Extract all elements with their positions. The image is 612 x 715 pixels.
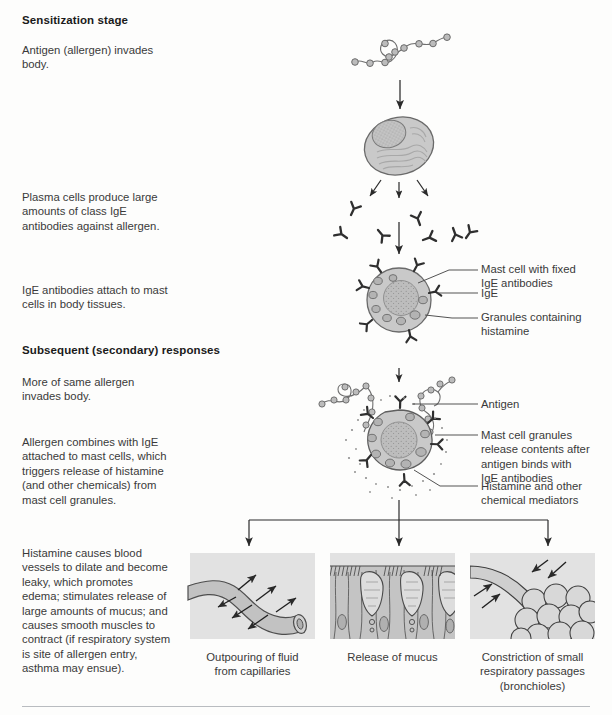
section-heading-subsequent: Subsequent (secondary) responses [22,344,220,356]
panel-caption-mucus: Release of mucus [330,650,455,664]
antigen-chain-secondary-icon [319,377,455,435]
bronchiole-alveoli-icon [470,553,601,648]
callout-granules-containing-histamine: Granules containing histamine [481,310,611,339]
antibody-cluster-icon [334,202,477,245]
callout-histamine-and-mediators: Histamine and other chemical mediators [481,479,611,508]
histamine-speckles [345,395,448,499]
callout-ige: IgE [481,286,498,300]
callout-mast-cell-with-fixed-ige: Mast cell with fixed IgE antibodies [481,262,611,291]
panel-caption-bronchiole: Constriction of small respiratory passag… [470,650,595,693]
plasma-cell-icon [358,109,441,183]
step-antigen-invades: Antigen (allergen) invades body. [22,43,202,72]
section-heading-sensitization: Sensitization stage [22,14,128,26]
callout-antigen: Antigen [481,397,519,411]
step-more-allergen-invades: More of same allergen invades body. [22,375,212,404]
step-ige-attach-mast-cells: IgE antibodies attach to mast cells in b… [22,283,222,312]
antigen-chain-icon [352,34,451,67]
step-allergen-combines-ige: Allergen combines with IgE attached to m… [22,435,222,507]
mast-cell-surface-antibodies [357,259,442,343]
arrows-plasma-to-antibodies [370,180,428,198]
mucosal-epithelium-icon [330,553,461,639]
degranulating-mast-cell-icon [345,395,448,499]
callout-mast-cell-granules-release: Mast cell granules release contents afte… [481,428,612,486]
allergy-mechanism-diagram: Sensitization stage Antigen (allergen) i… [0,0,612,715]
secondary-leader-lines [412,404,478,490]
degranulating-granules [368,413,430,468]
step-plasma-cells-produce-ige: Plasma cells produce large amounts of cl… [22,190,222,233]
alveoli-cluster [511,584,601,648]
mast-cell-icon [357,259,442,343]
panel-caption-capillary: Outpouring of fluid from capillaries [190,650,315,679]
bound-antigen-antibodies [360,396,443,485]
mast-cell-granules [369,275,427,325]
footer-rule [22,706,590,707]
mast-cell-leader-lines [418,270,478,318]
